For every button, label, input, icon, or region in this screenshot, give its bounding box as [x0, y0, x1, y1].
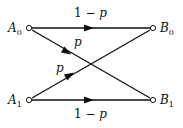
label-a0: A0 [7, 21, 22, 37]
label-edge-a0-b0: 1 − p [74, 6, 107, 20]
arrow-icon [84, 97, 94, 104]
label-edge-a1-b0: p [56, 61, 64, 75]
label-a1: A1 [7, 93, 22, 109]
node-b0 [150, 25, 155, 30]
label-b0: B0 [159, 21, 174, 37]
channel-diagram: A0 A1 B0 B1 1 − p p p 1 − p [0, 0, 183, 128]
label-b1: B1 [159, 93, 174, 109]
node-b1 [150, 97, 155, 102]
node-a1 [26, 97, 31, 102]
label-edge-a0-b1: p [74, 35, 82, 49]
node-a0 [26, 25, 31, 30]
label-edge-a1-b1: 1 − p [74, 107, 107, 121]
arrow-icon [84, 25, 94, 32]
